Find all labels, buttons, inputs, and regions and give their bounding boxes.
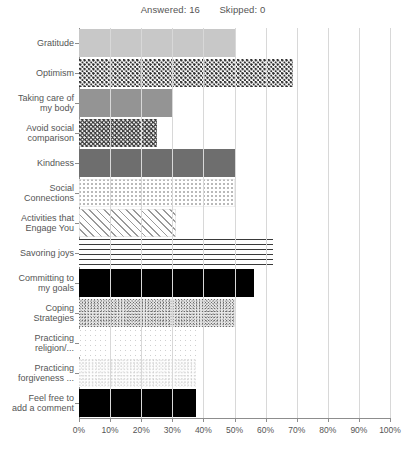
x-tick-mark [359,418,360,422]
category-label-line: comparison [0,133,74,144]
category-label-line: Practicing [0,333,74,344]
category-label: Avoid socialcomparison [0,123,74,144]
category-label: Committing tomy goals [0,273,74,294]
x-tick-mark [328,418,329,422]
y-tick-mark [75,73,79,74]
gridline [141,28,142,418]
category-label-line: my body [0,103,74,114]
y-tick-mark [75,193,79,194]
x-tick-label: 90% [350,425,367,435]
bar [79,269,254,297]
category-label: Feel free toadd a comment [0,393,74,414]
bar [79,359,196,387]
y-tick-mark [75,223,79,224]
category-label-line: Avoid social [0,123,74,134]
bar [79,389,196,417]
category-label-line: Connections [0,193,74,204]
bar [79,179,235,207]
y-tick-mark [75,343,79,344]
x-tick-mark [390,418,391,422]
bar [79,299,235,327]
y-tick-mark [75,403,79,404]
category-label: Gratitude [0,38,74,49]
gridline [203,28,204,418]
x-tick-mark [297,418,298,422]
bar [79,29,235,57]
x-tick-label: 20% [133,425,150,435]
category-label-line: Strategies [0,313,74,324]
answered-count: Answered: 16 [141,4,200,15]
survey-bar-chart: Answered: 16 Skipped: 0 0%10%20%30%40%50… [0,0,406,463]
category-label-line: Practicing [0,363,74,374]
category-label-line: Coping [0,303,74,314]
y-tick-mark [75,373,79,374]
skipped-count: Skipped: 0 [219,4,265,15]
x-tick-mark [203,418,204,422]
category-label-line: Optimism [0,68,74,79]
gridline [297,28,298,418]
gridline [266,28,267,418]
category-label-line: Savoring joys [0,248,74,259]
x-tick-mark [266,418,267,422]
category-label-line: add a comment [0,403,74,414]
x-tick-label: 100% [379,425,401,435]
x-tick-mark [172,418,173,422]
gridline [172,28,173,418]
category-label-line: Feel free to [0,393,74,404]
x-tick-label: 70% [288,425,305,435]
category-label: Kindness [0,158,74,169]
y-tick-mark [75,43,79,44]
category-label: Savoring joys [0,248,74,259]
category-label: Practicingreligion/... [0,333,74,354]
gridline [235,28,236,418]
bar [79,149,235,177]
gridline [359,28,360,418]
x-tick-label: 0% [73,425,85,435]
bar [79,89,172,117]
gridline [328,28,329,418]
category-label-line: Kindness [0,158,74,169]
chart-header: Answered: 16 Skipped: 0 [0,4,406,15]
y-tick-mark [75,163,79,164]
y-tick-mark [75,133,79,134]
category-label-line: my goals [0,283,74,294]
category-label: Taking care ofmy body [0,93,74,114]
category-label-line: religion/... [0,343,74,354]
x-tick-label: 30% [164,425,181,435]
x-tick-label: 80% [319,425,336,435]
category-label: Optimism [0,68,74,79]
bar [79,119,157,147]
category-label-line: Taking care of [0,93,74,104]
category-label: SocialConnections [0,183,74,204]
category-label-line: forgiveness ... [0,373,74,384]
bar [79,329,196,357]
x-tick-mark [235,418,236,422]
y-tick-mark [75,283,79,284]
x-tick-label: 40% [195,425,212,435]
x-tick-label: 50% [226,425,243,435]
category-label: CopingStrategies [0,303,74,324]
category-label-line: Engage You [0,223,74,234]
y-axis-labels: GratitudeOptimismTaking care ofmy bodyAv… [0,28,74,418]
bar [79,209,176,237]
x-tick-mark [141,418,142,422]
category-label: Activities thatEngage You [0,213,74,234]
gridline [390,28,391,418]
x-tick-label: 10% [102,425,119,435]
category-label-line: Committing to [0,273,74,284]
x-tick-mark [110,418,111,422]
category-label-line: Gratitude [0,38,74,49]
y-tick-mark [75,313,79,314]
bar [79,239,273,267]
y-tick-mark [75,253,79,254]
x-tick-mark [79,418,80,422]
category-label-line: Activities that [0,213,74,224]
y-tick-mark [75,103,79,104]
gridline [110,28,111,418]
x-tick-label: 60% [257,425,274,435]
category-label-line: Social [0,183,74,194]
category-label: Practicingforgiveness ... [0,363,74,384]
